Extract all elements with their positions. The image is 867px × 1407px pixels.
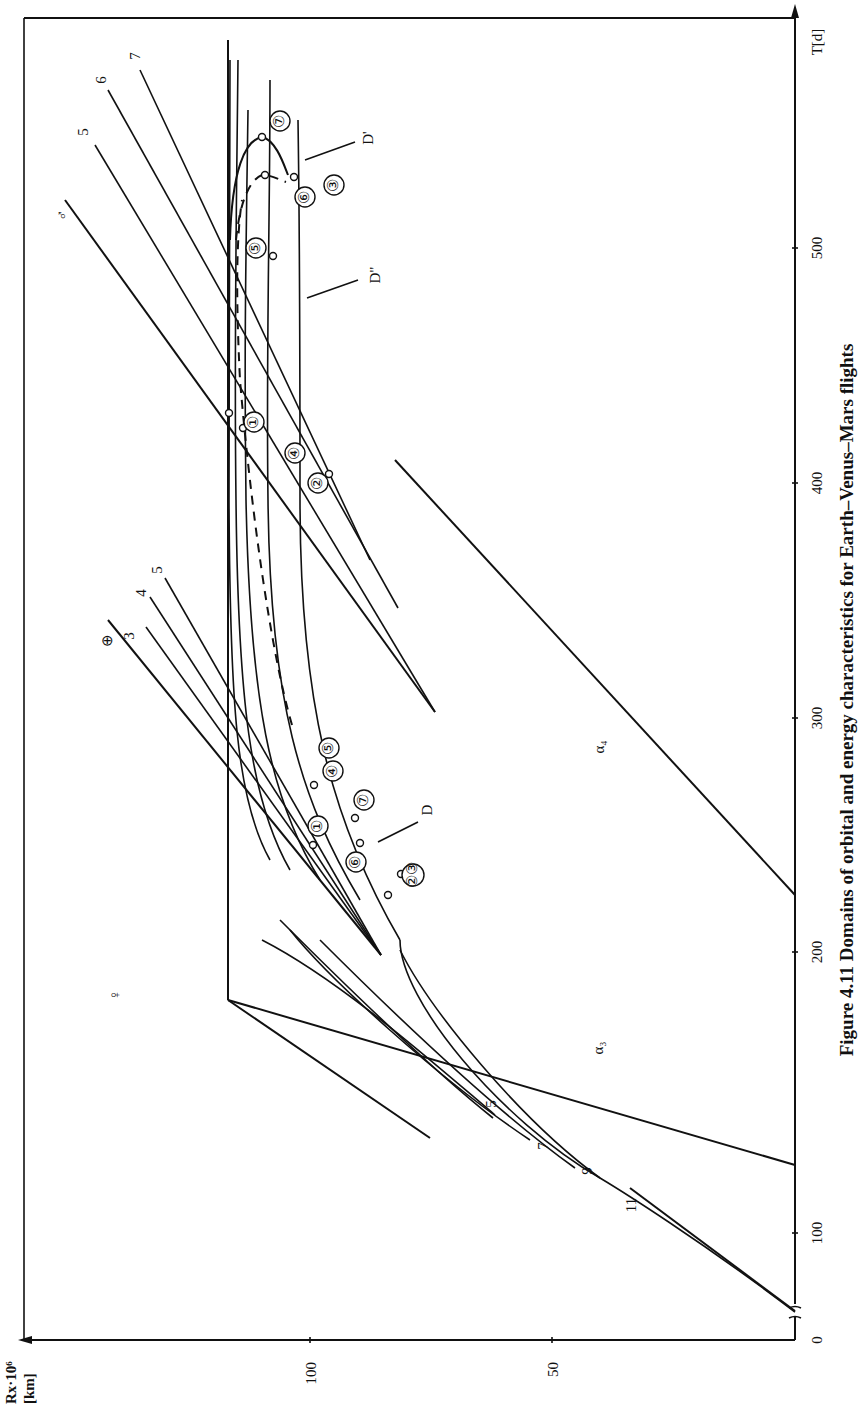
mars-lines xyxy=(65,70,435,712)
mars-symbol: ♂ xyxy=(54,209,70,220)
svg-text:④: ④ xyxy=(286,447,302,460)
svg-text:⑤: ⑤ xyxy=(247,242,263,255)
rx-axis-label-1: Rx·10⁶ xyxy=(3,1361,19,1404)
svg-text:100: 100 xyxy=(303,1362,319,1385)
svg-text:11: 11 xyxy=(623,1198,639,1212)
points-d-prime xyxy=(226,134,333,478)
svg-text:④: ④ xyxy=(324,765,340,778)
t-axis xyxy=(789,4,801,1340)
t-tick-labels: 0 100 200 300 400 500 T[d] xyxy=(809,29,825,1344)
svg-text:0: 0 xyxy=(809,1336,825,1344)
t-axis-arrow-icon xyxy=(791,4,799,18)
svg-text:5: 5 xyxy=(75,128,91,136)
chart-canvas: 0 100 200 300 400 500 T[d] 50 100 Rx·10⁶… xyxy=(0,0,867,1407)
svg-text:③: ③ xyxy=(325,179,341,192)
venus-symbol: ♀ xyxy=(107,989,123,1000)
rx-axis-arrow-icon xyxy=(18,1336,32,1344)
svg-text:7: 7 xyxy=(535,1142,551,1150)
svg-text:6: 6 xyxy=(93,76,109,84)
circled-labels-d-prime: ① ② ③ ④ ⑤ ⑥ ⑦ xyxy=(244,111,344,493)
svg-text:5: 5 xyxy=(149,566,165,574)
svg-text:9: 9 xyxy=(579,1167,595,1175)
rx-axis-label-2: [km] xyxy=(21,1373,37,1404)
svg-text:⑦: ⑦ xyxy=(355,794,371,807)
svg-text:50: 50 xyxy=(545,1362,561,1377)
domain-d-prime-label: D' xyxy=(360,131,376,145)
svg-text:200: 200 xyxy=(809,941,825,964)
svg-text:②: ② xyxy=(309,477,325,490)
axis-intercept-lines xyxy=(630,1188,795,1311)
inline-labels: ♀ ⊕ ♂ α₃ α₄ 5 7 9 11 3 4 5 5 6 7 D D' D" xyxy=(54,52,639,1212)
svg-text:①: ① xyxy=(245,416,261,429)
plot-frame xyxy=(24,18,795,1340)
earth-symbol: ⊕ xyxy=(99,634,115,647)
t-axis-label: T[d] xyxy=(809,29,825,56)
rx-tick-labels: 50 100 Rx·10⁶ [km] xyxy=(3,1361,561,1404)
domain-d-dprime-label: D" xyxy=(367,267,383,284)
svg-text:4: 4 xyxy=(133,589,149,597)
svg-text:⑥: ⑥ xyxy=(296,191,312,204)
circled-labels-d: ① ②③ ④ ⑤ ⑥ ⑦ xyxy=(308,738,424,888)
svg-text:②③: ②③ xyxy=(404,862,420,888)
svg-text:500: 500 xyxy=(809,237,825,260)
svg-text:100: 100 xyxy=(809,1222,825,1245)
domain-d-label: D xyxy=(419,804,435,815)
rx-axis xyxy=(18,1336,795,1344)
svg-text:⑤: ⑤ xyxy=(320,742,336,755)
figure-caption: Figure 4.11 Domains of orbital and energ… xyxy=(836,344,857,1057)
svg-text:3: 3 xyxy=(121,632,137,640)
alpha3-label: α₃ xyxy=(590,1041,606,1054)
svg-text:5: 5 xyxy=(483,1100,499,1108)
alpha4-label: α₄ xyxy=(591,740,607,753)
alpha3-line xyxy=(228,1000,795,1165)
svg-text:7: 7 xyxy=(127,52,143,60)
svg-text:⑦: ⑦ xyxy=(271,115,287,128)
family-curves xyxy=(229,60,400,940)
alpha4-line xyxy=(395,460,795,895)
svg-text:300: 300 xyxy=(809,707,825,730)
venus-curves xyxy=(262,920,795,1312)
svg-text:400: 400 xyxy=(809,472,825,495)
svg-text:⑥: ⑥ xyxy=(347,856,363,869)
svg-text:①: ① xyxy=(309,820,325,833)
